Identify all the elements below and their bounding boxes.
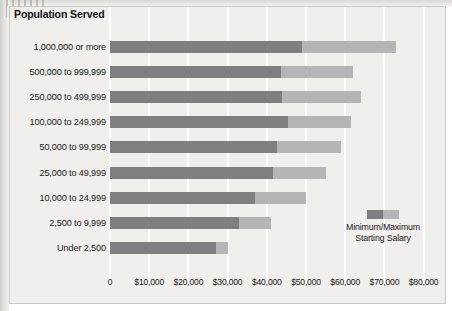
x-tick-label: $80,000 bbox=[409, 277, 439, 287]
bar-segment-max bbox=[277, 141, 342, 153]
bar-segment-min bbox=[110, 91, 282, 103]
bar-segment-min bbox=[110, 66, 281, 78]
bar-segment-max bbox=[288, 116, 351, 128]
gridline-80000 bbox=[423, 7, 425, 285]
bar-segment-min bbox=[110, 116, 288, 128]
bar-segment-min bbox=[110, 41, 302, 53]
bar-segment-max bbox=[273, 167, 326, 179]
bar-segment-max bbox=[281, 66, 354, 78]
legend-swatch-min bbox=[367, 210, 383, 219]
bar-segment-max bbox=[255, 192, 306, 204]
legend-label-line-2: Starting Salary bbox=[323, 233, 443, 243]
x-tick-label: $60,000 bbox=[330, 277, 360, 287]
x-tick-label: $50,000 bbox=[291, 277, 321, 287]
bar-segment-min bbox=[110, 141, 277, 153]
chart-container: Population Served 1,000,000 or more500,0… bbox=[0, 0, 452, 311]
bar-segment-max bbox=[282, 91, 360, 103]
category-label: 1,000,000 or more bbox=[6, 42, 106, 52]
bar-segment-min bbox=[110, 167, 273, 179]
x-tick-label: 0 bbox=[108, 277, 113, 287]
category-label: 25,000 to 49,999 bbox=[6, 168, 106, 178]
category-label: 500,000 to 999,999 bbox=[6, 67, 106, 77]
x-tick-label: $20,000 bbox=[174, 277, 204, 287]
category-label: 250,000 to 499,999 bbox=[6, 92, 106, 102]
category-label: 2,500 to 9,999 bbox=[6, 218, 106, 228]
x-tick-label: $40,000 bbox=[252, 277, 282, 287]
bar-segment-max bbox=[302, 41, 396, 53]
bar-segment-max bbox=[216, 242, 228, 254]
category-label: 10,000 to 24,999 bbox=[6, 193, 106, 203]
category-label: 100,000 to 249,999 bbox=[6, 117, 106, 127]
bar-segment-min bbox=[110, 192, 255, 204]
x-tick-label: $70,000 bbox=[370, 277, 400, 287]
x-tick-label: $10,000 bbox=[134, 277, 164, 287]
x-tick-label: $30,000 bbox=[213, 277, 243, 287]
category-label: 50,000 to 99,999 bbox=[6, 142, 106, 152]
bar-segment-min bbox=[110, 217, 239, 229]
legend-swatch-max bbox=[383, 210, 399, 219]
category-label: Under 2,500 bbox=[6, 243, 106, 253]
bar-segment-max bbox=[239, 217, 270, 229]
chart-title: Population Served bbox=[14, 8, 104, 20]
legend-label-line-1: Minimum/Maximum bbox=[323, 222, 443, 232]
bar-segment-min bbox=[110, 242, 216, 254]
